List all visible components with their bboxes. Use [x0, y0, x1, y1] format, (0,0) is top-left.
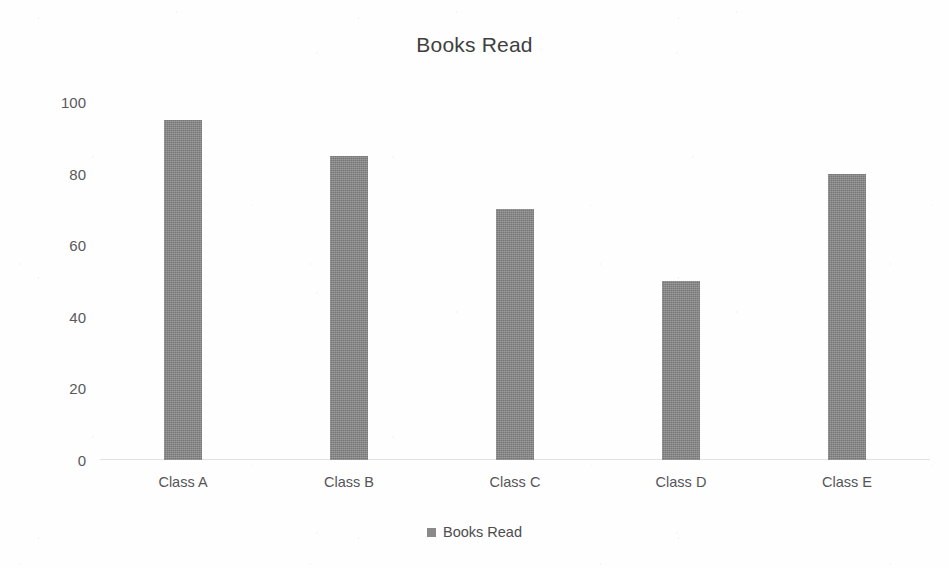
y-axis-tick-label: 20: [30, 380, 86, 397]
x-axis-category-label: Class D: [606, 474, 756, 490]
chart-legend: Books Read: [0, 524, 949, 540]
y-axis-tick-label: 60: [30, 237, 86, 254]
x-axis-category-label: Class B: [274, 474, 424, 490]
square-marker-icon: [427, 528, 436, 537]
bar: [828, 174, 866, 460]
x-axis-category-label: Class A: [108, 474, 258, 490]
x-axis-category-label: Class E: [772, 474, 922, 490]
y-axis-tick-label: 100: [30, 94, 86, 111]
y-axis-tick-label: 40: [30, 308, 86, 325]
bar: [496, 209, 534, 460]
y-axis: 020406080100: [24, 102, 86, 460]
y-axis-tick-label: 0: [30, 452, 86, 469]
chart-title: Books Read: [0, 33, 949, 57]
bar-chart-figure: Books Read 020406080100 Books Read Class…: [0, 0, 949, 569]
bar: [164, 120, 202, 460]
bar: [662, 281, 700, 460]
bar: [330, 156, 368, 460]
x-axis-category-label: Class C: [440, 474, 590, 490]
legend-item-label: Books Read: [443, 524, 522, 540]
y-axis-tick-label: 80: [30, 165, 86, 182]
plot-area: [100, 102, 930, 460]
